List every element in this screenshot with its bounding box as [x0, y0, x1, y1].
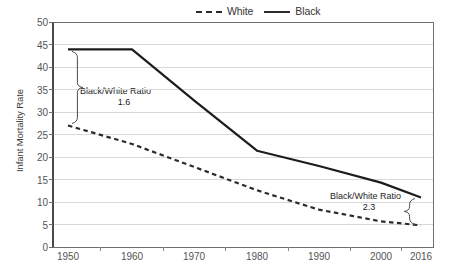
brace-left-icon [72, 51, 83, 123]
plot-area [0, 0, 458, 279]
series-line-black [68, 49, 421, 197]
infant-mortality-chart: White Black Infant Mortality Rate 50 45 … [0, 0, 458, 279]
